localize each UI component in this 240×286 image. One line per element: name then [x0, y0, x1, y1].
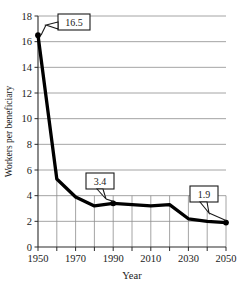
- callout-leader: [209, 213, 226, 221]
- y-tick-label: 10: [22, 113, 33, 124]
- callout-leader: [41, 25, 46, 35]
- y-tick-label: 2: [27, 216, 32, 227]
- x-tick-label: 2050: [216, 253, 237, 264]
- x-tick-label: 2030: [178, 253, 199, 264]
- y-axis-title: Workers per beneficiary: [4, 85, 14, 177]
- x-tick-label: 1950: [28, 253, 49, 264]
- callout-tail: [97, 189, 106, 199]
- callout-leader: [106, 199, 113, 201]
- y-tick-label: 6: [27, 165, 32, 176]
- y-tick-label: 12: [22, 88, 33, 99]
- y-tick-label: 8: [27, 139, 32, 150]
- callout-tail: [46, 22, 58, 29]
- y-tick-label: 4: [27, 190, 33, 201]
- y-tick-label: 14: [22, 62, 33, 73]
- callout-label: 16.5: [65, 17, 83, 28]
- y-tick-label: 18: [22, 11, 33, 22]
- x-axis-title: Year: [122, 270, 142, 281]
- chart-canvas: 024681012141618195019701990201020302050Y…: [0, 0, 240, 286]
- y-tick-label: 16: [22, 36, 33, 47]
- callout-tail: [200, 202, 209, 213]
- callout-label: 1.9: [198, 189, 211, 200]
- x-tick-label: 2010: [140, 253, 161, 264]
- data-point-marker: [35, 32, 41, 38]
- x-tick-label: 1990: [103, 253, 124, 264]
- x-tick-label: 1970: [65, 253, 86, 264]
- callout-label: 3.4: [94, 176, 107, 187]
- line-chart: 024681012141618195019701990201020302050Y…: [0, 0, 240, 286]
- y-tick-label: 0: [27, 242, 32, 253]
